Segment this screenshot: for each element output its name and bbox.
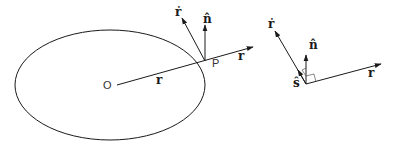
orbit-vector-diagram: O r P r ṙ n̂ ṙ n̂ ŝ r bbox=[0, 0, 396, 151]
right-angle-marker-nr bbox=[306, 74, 316, 82]
position-vector-label: r bbox=[156, 73, 163, 87]
velocity-vector bbox=[182, 18, 205, 61]
velocity-label: ṙ bbox=[175, 5, 182, 19]
velocity-label-right: ṙ bbox=[268, 17, 275, 31]
tangent-label-right: ŝ bbox=[293, 76, 300, 90]
position-vector-label-right: r bbox=[368, 66, 375, 80]
extension-label: r bbox=[238, 49, 245, 63]
right-angle-marker-sn bbox=[302, 68, 306, 76]
position-vector-r bbox=[117, 47, 253, 85]
normal-label: n̂ bbox=[203, 12, 212, 26]
normal-label-right: n̂ bbox=[309, 38, 318, 52]
point-label: P bbox=[212, 57, 219, 69]
origin-label: O bbox=[103, 79, 112, 91]
left-panel: O r P r ṙ n̂ bbox=[15, 5, 253, 140]
right-panel: ṙ n̂ ŝ r bbox=[268, 17, 381, 90]
